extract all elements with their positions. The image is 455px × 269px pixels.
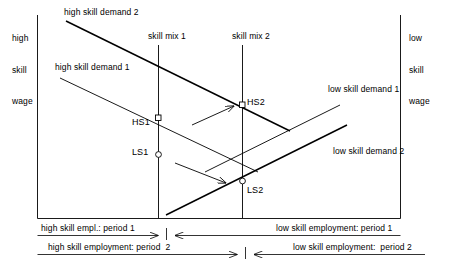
bracket-row1-left-label: high skill empl.: period 1: [41, 223, 135, 234]
skill-mix-2-label: skill mix 2: [232, 31, 270, 42]
low-skill-demand-2-label: low skill demand 2: [333, 146, 404, 157]
ls1-label: LS1: [132, 147, 148, 158]
high-skill-demand-2-label: high skill demand 2: [64, 7, 139, 18]
ls2-marker: [240, 178, 246, 184]
diagram-canvas: high skill wage low skill wage high skil…: [0, 0, 455, 269]
left-axis-label-line-2: skill: [12, 65, 33, 76]
right-axis-label-line-2: skill: [409, 65, 430, 76]
high-skill-demand-1-curve: [60, 78, 258, 172]
left-axis-label-line-3: wage: [12, 96, 33, 107]
bracket-row1-right-label: low skill employment: period 1: [276, 223, 392, 234]
left-axis-label-line-1: high: [12, 33, 33, 44]
low-skill-shift-arrow: [175, 163, 226, 183]
hs1-marker: [156, 115, 162, 121]
ls2-label: LS2: [247, 185, 263, 196]
right-axis-label-line-3: wage: [409, 96, 430, 107]
left-axis-label: high skill wage: [12, 12, 33, 128]
high-skill-shift-arrow: [192, 106, 234, 125]
high-skill-demand-1-label: high skill demand 1: [55, 62, 130, 73]
low-skill-demand-1-label: low skill demand 1: [328, 84, 399, 95]
right-axis-label-line-1: low: [409, 33, 430, 44]
hs2-marker: [240, 102, 246, 108]
hs1-label: HS1: [132, 117, 150, 128]
ls1-marker: [156, 152, 162, 158]
right-axis-label: low skill wage: [409, 12, 430, 128]
bracket-row2-right-label: low skill employment: period 2: [293, 242, 412, 253]
bracket-row2-left-label: high skill employment: period 2: [48, 242, 170, 253]
skill-mix-1-label: skill mix 1: [148, 31, 186, 42]
hs2-label: HS2: [247, 97, 265, 108]
